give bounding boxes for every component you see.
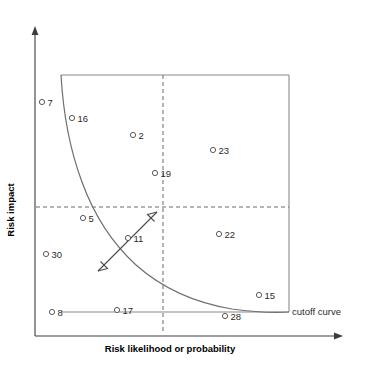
data-point-label: 15 (265, 290, 276, 301)
data-point-label: 5 (89, 213, 94, 224)
risk-matrix-chart: 7 16 2 23 19 5 (0, 0, 371, 366)
x-axis-arrowhead (334, 333, 343, 340)
data-point-23[interactable]: 23 (210, 145, 229, 156)
data-point-label: 16 (78, 113, 89, 124)
data-point-11[interactable]: 11 (125, 233, 143, 244)
data-point-17[interactable]: 17 (114, 305, 133, 316)
data-point-label: 30 (52, 249, 63, 260)
data-point-22[interactable]: 22 (216, 229, 235, 240)
data-point-7[interactable]: 7 (39, 97, 52, 108)
quadrant-dividers (36, 75, 289, 333)
data-point-8[interactable]: 8 (49, 307, 62, 318)
data-point-label: 11 (134, 233, 144, 244)
y-axis-arrowhead (32, 26, 39, 35)
data-point-label: 23 (219, 145, 230, 156)
data-point-label: 8 (58, 307, 63, 318)
data-point-15[interactable]: 15 (256, 290, 275, 301)
data-point-5[interactable]: 5 (80, 213, 93, 224)
data-point-label: 28 (231, 311, 242, 322)
data-point-label: 2 (139, 130, 144, 141)
y-axis-title: Risk impact (5, 183, 16, 237)
x-axis (35, 333, 343, 340)
data-point-30[interactable]: 30 (43, 249, 62, 260)
y-axis (32, 26, 39, 336)
data-point-label: 17 (123, 305, 134, 316)
risk-trend-arrow (98, 212, 157, 271)
data-point-label: 7 (48, 97, 53, 108)
cutoff-curve (61, 75, 289, 312)
data-point-label: 19 (161, 168, 172, 179)
data-point-19[interactable]: 19 (152, 168, 171, 179)
data-point-label: 22 (225, 229, 236, 240)
data-point-16[interactable]: 16 (69, 113, 88, 124)
chart-canvas: 7 16 2 23 19 5 (0, 0, 371, 366)
cutoff-curve-label: cutoff curve (292, 306, 341, 317)
x-axis-title: Risk likelihood or probability (105, 343, 236, 354)
data-point-2[interactable]: 2 (130, 130, 143, 141)
data-points: 7 16 2 23 19 5 (39, 97, 275, 322)
plot-area-box (61, 75, 289, 312)
